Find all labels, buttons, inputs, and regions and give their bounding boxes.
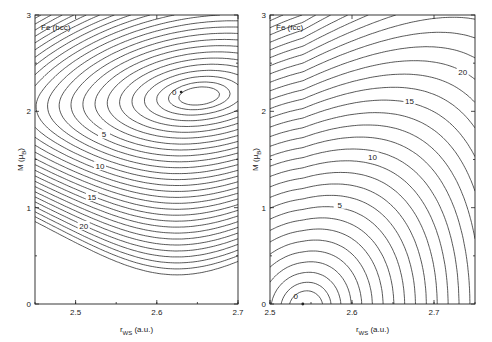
- contour-line: [35, 15, 238, 197]
- contour-line: [270, 172, 437, 304]
- y-tick-label: 2: [262, 107, 267, 116]
- y-tick-label: 2: [27, 107, 32, 116]
- contour-line: [270, 61, 475, 100]
- contour-line: [270, 74, 475, 109]
- contour-line: [270, 15, 348, 50]
- contour-label: 15: [87, 193, 96, 202]
- contour-label: 5: [102, 130, 107, 139]
- panel-fe-fcc: 2.52.62.7012351015200 Fe (fcc) M (μB) rW…: [251, 11, 475, 336]
- panel-title: Fe (fcc): [276, 23, 303, 32]
- x-axis-label: rWS (a.u.): [356, 325, 390, 336]
- y-tick-label: 0: [262, 300, 267, 309]
- y-axis-label: M (μB): [251, 148, 262, 171]
- contour-line: [169, 82, 231, 110]
- contour-line: [271, 272, 341, 304]
- x-axis-label-text: rWS (a.u.): [356, 325, 390, 336]
- contour-line: [270, 47, 475, 91]
- contour-line: [35, 217, 238, 269]
- x-tick-label: 2.5: [264, 308, 276, 317]
- contour-line: [270, 207, 405, 304]
- x-tick-label: 2.7: [232, 308, 244, 317]
- x-axis-label: rWS (a.u.): [120, 325, 154, 336]
- contour-line: [132, 64, 238, 126]
- figure: 2.52.62.7012351015200 Fe (bcc) M (μB) rW…: [0, 0, 492, 342]
- axis-ticks: 2.52.62.7012351015200: [262, 11, 475, 317]
- y-tick-label: 1: [262, 204, 267, 213]
- contour-line: [35, 15, 238, 215]
- minimum-point: [301, 303, 304, 306]
- panel-fe-bcc: 2.52.62.7012351015200 Fe (bcc) M (μB) rW…: [16, 11, 244, 336]
- contour-line: [270, 15, 283, 21]
- y-tick-label: 3: [27, 11, 32, 20]
- x-tick-label: 2.6: [346, 308, 358, 317]
- y-axis-label-text: M (μB): [16, 148, 27, 171]
- contour-label: 15: [405, 97, 414, 106]
- contour-label: 5: [337, 201, 342, 210]
- contour-line: [36, 15, 238, 174]
- contour-line: [270, 125, 475, 239]
- contour-line: [120, 58, 238, 132]
- contour-line: [35, 202, 238, 251]
- y-tick-label: 1: [27, 204, 32, 213]
- x-tick-label: 2.7: [428, 308, 440, 317]
- contour-label: 10: [96, 162, 105, 171]
- contour-line: [179, 87, 220, 105]
- y-axis-label: M (μB): [16, 148, 27, 171]
- contour-line: [270, 149, 459, 304]
- minimum-label: 0: [172, 88, 177, 97]
- y-tick-label: 3: [262, 11, 267, 20]
- panel-title: Fe (bcc): [41, 23, 71, 32]
- contour-line: [270, 32, 475, 82]
- contour-label: 20: [79, 222, 88, 231]
- contour-line: [35, 222, 238, 275]
- contour-line: [281, 282, 331, 304]
- x-axis-label-text: rWS (a.u.): [120, 325, 154, 336]
- contour-line: [270, 87, 475, 128]
- minimum-label: 0: [294, 292, 299, 301]
- contour-lines: [35, 15, 238, 275]
- contour-line: [270, 161, 448, 304]
- y-axis-label-text: M (μB): [251, 148, 262, 171]
- y-tick-label: 0: [27, 300, 32, 309]
- minimum-point: [180, 91, 183, 94]
- x-tick-label: 2.6: [151, 308, 163, 317]
- contour-label: 20: [458, 68, 467, 77]
- x-tick-label: 2.5: [70, 308, 82, 317]
- contour-line: [270, 218, 394, 304]
- contour-label: 10: [368, 153, 377, 162]
